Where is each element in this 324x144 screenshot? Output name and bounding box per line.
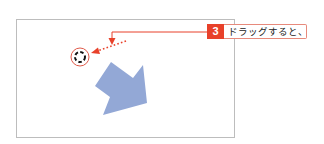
arrow-shape[interactable] <box>95 62 147 115</box>
annotation-overlay <box>0 0 324 144</box>
drag-direction-arrow <box>91 41 126 54</box>
callout-leader-line <box>109 32 208 45</box>
step-instruction-text: ドラッグすると、 <box>224 24 307 39</box>
step-number-badge: 3 <box>207 24 224 39</box>
rotate-handle-icon[interactable] <box>71 48 89 66</box>
step-callout: 3 ドラッグすると、 <box>207 24 307 39</box>
